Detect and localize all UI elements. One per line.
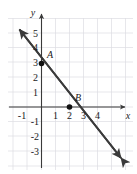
x-axis-label: x <box>125 110 131 121</box>
y-tick-4: 4 <box>33 42 38 53</box>
x-tick-1: 1 <box>53 110 58 121</box>
point-labels: A B <box>46 49 81 103</box>
y-axis-label: y <box>30 7 36 18</box>
x-tick-2: 2 <box>67 110 72 121</box>
point-a-marker <box>39 61 45 67</box>
y-tick-2: 2 <box>33 72 38 83</box>
point-a-label: A <box>46 49 54 60</box>
y-tick-3: 3 <box>33 57 38 68</box>
y-tick-1: 1 <box>33 87 38 98</box>
y-tick-5: 5 <box>33 28 38 39</box>
x-tick-neg-1: -1 <box>18 110 26 121</box>
x-tick-4: 4 <box>95 110 100 121</box>
y-tick-neg-1: -1 <box>31 116 39 127</box>
point-b-label: B <box>75 92 81 103</box>
y-tick-neg-3: -3 <box>31 146 39 157</box>
x-tick-3: 3 <box>81 110 86 121</box>
y-tick-neg-2: -2 <box>31 131 39 142</box>
coordinate-plane-svg: y x 5 4 3 2 1 -1 -2 -3 -1 1 2 3 4 A B <box>0 0 137 174</box>
coordinate-graph-figure: y x 5 4 3 2 1 -1 -2 -3 -1 1 2 3 4 A B <box>0 0 137 174</box>
point-b-marker <box>67 104 73 110</box>
